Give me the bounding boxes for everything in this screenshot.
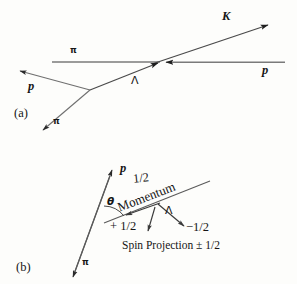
panel-b-pion-label: π (82, 258, 89, 267)
spin-down-label: −1/2 (186, 221, 209, 234)
spin-plus-half-arrow (148, 207, 155, 231)
beam-pi-label: π (70, 46, 77, 55)
theta-label: θ (107, 196, 114, 207)
target-p-label: p (262, 64, 268, 77)
panel-b-tag: (b) (16, 261, 31, 274)
panel-b-lambda-label: Λ (165, 205, 173, 216)
decay-pion-label: π (53, 117, 60, 126)
panel-a-tag: (a) (14, 107, 28, 120)
panel-b-proton-label: p (120, 162, 126, 175)
physics-figure: (a) π p K Λ p π (b) p 1/2 θ Momentum Λ −… (0, 0, 297, 284)
spin-plus-half-label: + 1/2 (110, 220, 136, 233)
lambda-track (90, 63, 158, 90)
pion-arrow (73, 176, 110, 277)
lambda-label: Λ (131, 75, 139, 86)
kaon-label: K (222, 10, 230, 23)
decay-proton-label: p (28, 80, 34, 93)
kaon-track (152, 25, 268, 64)
spin-up-label: 1/2 (132, 171, 149, 185)
decay-pion-track (43, 90, 90, 130)
spin-projection-caption: Spin Projection ± 1/2 (122, 240, 220, 252)
